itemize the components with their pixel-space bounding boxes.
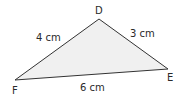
vertex-label-e: E — [167, 73, 173, 83]
side-label-df: 4 cm — [36, 33, 61, 43]
side-label-de: 3 cm — [130, 29, 155, 39]
vertex-label-d: D — [95, 6, 103, 16]
side-label-ef: 6 cm — [80, 83, 105, 93]
vertex-label-f: F — [12, 86, 18, 96]
